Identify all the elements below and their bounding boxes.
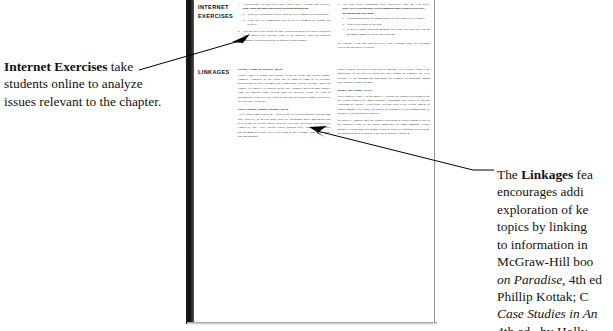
annotation-line: to information in [497, 236, 613, 253]
annotation-bold-term: Linkages [521, 167, 573, 182]
sub-item-text: Is kissing an instinctive human display … [347, 16, 425, 20]
annotation-text: 4th ed [565, 272, 601, 287]
column-2: Nahua peoples and others in Mexico to em… [338, 67, 431, 141]
exercise-body: The Kiss: Read Washington State Universi… [342, 2, 430, 37]
annotation-internet-exercises: Internet Exercises take students online … [4, 58, 176, 110]
section-linkages: LINKAGES Kottak, Assault on Paradise, 4t… [198, 67, 430, 141]
page-spine-bar [186, 0, 194, 324]
page-content: INTERNET EXERCISES 1. Acculturation: Go … [198, 0, 430, 323]
exercise-text: Take the quiz at the end of the page. Wh… [243, 29, 331, 42]
linkage-text: Aztec: Most people regard the Aztecs as … [238, 112, 331, 138]
annotation-line: The Linkages fea [497, 166, 613, 183]
learning-center-note: See Chapter 13 on your McGraw-Hill's Atl… [338, 41, 431, 50]
sub-item-letter: b. [342, 22, 345, 26]
linkage-block: Kottak, Assault on Paradise, 4th ed. Cul… [238, 67, 331, 103]
column-1: 1. Acculturation: Go and read Cyndi Fiss… [238, 2, 331, 49]
linkage-block: Knauft, The Gebusi, 1st ed. Read Chapter… [338, 88, 431, 116]
exercise-list: 3. The Kiss: Read Washington State Unive… [338, 2, 431, 37]
linkage-block: In Chapter 7, consider how the author's … [338, 118, 431, 136]
sub-item-text: What is the history of the kiss? [347, 22, 382, 26]
exercise-item: 3. The Kiss: Read Washington State Unive… [338, 2, 431, 37]
annotation-text: fea [573, 167, 593, 182]
textbook-page: INTERNET EXERCISES 1. Acculturation: Go … [186, 0, 435, 324]
sub-item-text: What are pidgins and creoles? How are th… [248, 12, 330, 16]
exercise-url: http://www.wsu.edu:8001/vcwsu/commons/to… [342, 6, 425, 14]
exercise-number: 2. [238, 29, 241, 42]
section-label-line-2: EXERCISES [198, 12, 238, 21]
linkage-text: Culture: This text chapter has discussed… [238, 73, 331, 104]
section-label-line-1: LINKAGES [198, 68, 238, 77]
linkage-text: Nahua peoples and others in Mexico to em… [338, 67, 431, 85]
column-2: 3. The Kiss: Read Washington State Unive… [338, 2, 431, 49]
exercise-text: Acculturation: Go and read Cyndi Fisse's… [243, 2, 331, 6]
exercise-number: 3. [338, 2, 341, 37]
linkage-text: In Chapter 7, consider how the author's … [338, 118, 431, 136]
sub-item-text: Is there a single, universal meaning for… [347, 27, 430, 36]
exercise-sub-item: b. What role did colonialism play in the… [243, 18, 331, 27]
section-label-internet-exercises: INTERNET EXERCISES [198, 2, 238, 20]
linkage-heading: Peters-Golden, Culture Sketches, 4th ed. [238, 107, 331, 111]
column-1: Kottak, Assault on Paradise, 4th ed. Cul… [238, 67, 331, 141]
annotation-linkages: The Linkages fea encourages addi explora… [497, 166, 613, 331]
exercise-sub-item: a. Is kissing an instinctive human displ… [342, 16, 430, 20]
sub-item-letter: a. [243, 12, 246, 16]
linkage-text: Read Chapters 1 and 7. In an Chapter 1, … [338, 94, 431, 116]
section-columns: 1. Acculturation: Go and read Cyndi Fiss… [238, 2, 430, 49]
annotation-line: 4th ed., by Holly [497, 323, 613, 331]
section-internet-exercises: INTERNET EXERCISES 1. Acculturation: Go … [198, 2, 430, 49]
annotation-text: take [108, 59, 134, 74]
annotation-line: encourages addi [497, 183, 613, 200]
annotation-line: issues relevant to the chapter. [4, 93, 176, 110]
section-label-linkages: LINKAGES [198, 67, 238, 77]
exercise-text: The Kiss: Read Washington State Universi… [342, 2, 430, 6]
annotation-line: students online to analyze [4, 75, 176, 92]
exercise-sub-item: c. Is there a single, universal meaning … [342, 27, 430, 36]
annotation-text: The [497, 167, 521, 182]
annotation-line: Phillip Kottak; C [497, 288, 613, 305]
sub-item-letter: a. [342, 16, 345, 20]
annotation-line: Case Studies in An [497, 305, 613, 322]
exercise-url: http://logos.uoregon.edu/explore/socioli… [243, 6, 309, 10]
section-label-line-1: INTERNET [198, 3, 238, 12]
linkage-block: Peters-Golden, Culture Sketches, 4th ed.… [238, 107, 331, 139]
exercise-sub-item: b. What is the history of the kiss? [342, 22, 430, 26]
exercise-list: 1. Acculturation: Go and read Cyndi Fiss… [238, 2, 331, 42]
linkage-block: Nahua peoples and others in Mexico to em… [338, 67, 431, 85]
exercise-sub-list: a. What are pidgins and creoles? How are… [243, 12, 331, 26]
sub-item-letter: b. [243, 18, 246, 27]
exercise-sub-item: a. What are pidgins and creoles? How are… [243, 12, 331, 16]
exercise-sub-list: a. Is kissing an instinctive human displ… [342, 16, 430, 36]
annotation-line: exploration of ke [497, 201, 613, 218]
annotation-bold-term: Internet Exercises [4, 59, 108, 74]
annotation-line: McGraw-Hill boo [497, 253, 613, 270]
linkage-heading: Kottak, Assault on Paradise, 4th ed. [238, 67, 331, 71]
annotation-line: Internet Exercises take [4, 58, 176, 75]
exercise-item: 2. Take the quiz at the end of the page.… [238, 29, 331, 42]
annotation-book-title: on Paradise, [497, 272, 565, 287]
annotation-line: topics by linking [497, 218, 613, 235]
page-bottom-shadow [187, 322, 437, 325]
annotation-line: on Paradise, 4th ed [497, 271, 613, 288]
sub-item-text: What role did colonialism play in the de… [248, 18, 331, 27]
exercise-body: Acculturation: Go and read Cyndi Fisse's… [243, 2, 331, 27]
linkage-heading: Knauft, The Gebusi, 1st ed. [338, 88, 431, 92]
exercise-number: 1. [238, 2, 241, 27]
sub-item-letter: c. [342, 27, 345, 36]
exercise-item: 1. Acculturation: Go and read Cyndi Fiss… [238, 2, 331, 27]
annotation-book-title: Case Studies in An [497, 306, 598, 321]
section-columns: Kottak, Assault on Paradise, 4th ed. Cul… [238, 67, 430, 141]
